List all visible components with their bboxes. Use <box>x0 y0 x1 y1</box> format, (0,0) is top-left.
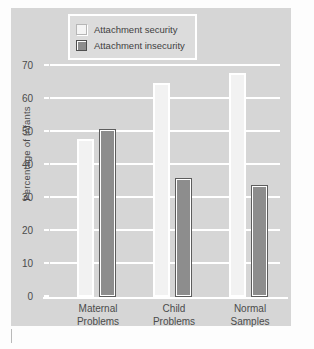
legend-label-insecurity: Attachment insecurity <box>94 40 185 51</box>
chart-figure: Percentage of Infants 010203040506070 Ma… <box>0 0 314 349</box>
bar-group <box>229 66 271 297</box>
category-label-line: Normal <box>205 303 295 316</box>
y-axis-tick: 20 <box>44 229 49 231</box>
white-square-icon <box>76 24 87 35</box>
y-axis-tick: 70 <box>44 64 49 66</box>
category-label-line: Samples <box>205 316 295 329</box>
bar-attachment-security <box>77 139 94 297</box>
plot-area: 010203040506070 <box>50 58 280 297</box>
bar-attachment-security <box>153 83 170 298</box>
y-axis-tick-label: 10 <box>22 258 33 269</box>
y-axis-tick-label: 70 <box>22 60 33 71</box>
y-axis-tick: 40 <box>44 163 49 165</box>
legend-label-security: Attachment security <box>94 24 177 35</box>
y-axis-tick-label: 0 <box>27 291 33 302</box>
chart-legend: Attachment security Attachment insecurit… <box>68 14 197 60</box>
y-axis-tick-label: 20 <box>22 225 33 236</box>
y-axis-tick-label: 60 <box>22 93 33 104</box>
x-axis-category-label: NormalSamples <box>205 303 295 328</box>
bar-attachment-security <box>229 73 246 297</box>
y-axis-tick: 10 <box>44 262 49 264</box>
x-axis-baseline <box>43 297 288 299</box>
y-axis-tick-label: 50 <box>22 126 33 137</box>
bar-group <box>77 66 119 297</box>
bar-group <box>153 66 195 297</box>
plot-inner: 010203040506070 <box>50 66 280 297</box>
y-axis-tick-label: 40 <box>22 159 33 170</box>
y-axis-tick: 60 <box>44 97 49 99</box>
y-axis-tick-label: 30 <box>22 192 33 203</box>
y-axis-title: Percentage of Infants <box>21 84 32 224</box>
bar-attachment-insecurity <box>251 185 268 297</box>
legend-item-security: Attachment security <box>76 21 185 37</box>
legend-item-insecurity: Attachment insecurity <box>76 37 185 53</box>
bar-attachment-insecurity <box>175 178 192 297</box>
y-axis-tick: 30 <box>44 196 49 198</box>
bar-attachment-insecurity <box>99 129 116 297</box>
y-axis-tick: 50 <box>44 130 49 132</box>
gray-square-icon <box>76 40 87 51</box>
panel-corner-tick <box>11 329 12 343</box>
